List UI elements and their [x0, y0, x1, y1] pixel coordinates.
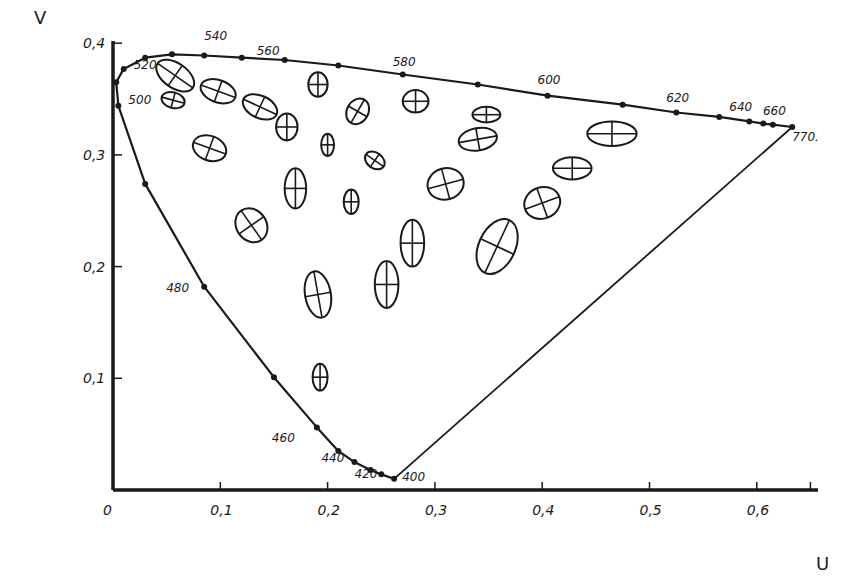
- wavelength-label: 660: [763, 104, 786, 118]
- wavelength-label: 600: [538, 73, 561, 87]
- macadam-ellipses: [151, 53, 637, 390]
- locus-point: [113, 79, 119, 85]
- macadam-ellipse: [321, 134, 334, 156]
- macadam-ellipse: [457, 125, 499, 154]
- locus-point: [673, 109, 679, 115]
- x-tick-label: 0,1: [210, 502, 232, 518]
- locus-point: [201, 284, 207, 290]
- macadam-ellipse: [160, 90, 187, 111]
- x-tick-label: 0,6: [747, 502, 769, 518]
- wavelength-label: 520: [134, 58, 157, 72]
- locus-point: [142, 181, 148, 187]
- macadam-ellipse: [520, 182, 565, 224]
- locus-point: [314, 424, 320, 430]
- locus-point: [201, 52, 207, 58]
- x-axis-label: U: [816, 553, 829, 574]
- macadam-ellipse: [403, 90, 429, 112]
- macadam-ellipse: [197, 74, 239, 107]
- spectral-locus: [113, 51, 795, 481]
- chromaticity-chart: V U 00,10,20,30,40,50,60,10,20,30,4 4004…: [0, 0, 857, 588]
- locus-point: [746, 118, 752, 124]
- macadam-ellipse: [285, 168, 306, 208]
- x-tick-label: 0,2: [318, 502, 340, 518]
- x-tick-label: 0,4: [532, 502, 554, 518]
- spectral-locus-curve: [116, 54, 792, 478]
- locus-point: [770, 122, 776, 128]
- wavelength-label: 500: [128, 93, 151, 107]
- wavelength-label: 440: [321, 451, 344, 465]
- wavelength-label: 640: [729, 100, 752, 114]
- macadam-ellipse: [239, 89, 282, 125]
- macadam-ellipse: [472, 107, 500, 123]
- macadam-ellipse: [229, 202, 274, 249]
- macadam-ellipse: [308, 72, 327, 97]
- wavelength-label: 420: [355, 467, 378, 481]
- y-tick-label: 0,4: [83, 35, 105, 51]
- axes: [113, 41, 818, 490]
- locus-point: [351, 459, 357, 465]
- macadam-ellipse: [342, 94, 374, 128]
- x-tick-label: 0,3: [425, 502, 447, 518]
- wavelength-label: 620: [666, 91, 689, 105]
- y-tick-label: 0,2: [83, 259, 105, 275]
- wavelength-label: 400: [402, 470, 425, 484]
- macadam-ellipse: [189, 131, 230, 166]
- macadam-ellipse: [587, 121, 636, 146]
- locus-point: [620, 102, 626, 108]
- y-axis-label: V: [34, 7, 47, 28]
- locus-point: [335, 63, 341, 69]
- tick-labels: 00,10,20,30,40,50,60,10,20,30,4: [83, 35, 810, 518]
- locus-point: [121, 66, 127, 72]
- locus-point: [760, 121, 766, 127]
- macadam-ellipse: [468, 212, 526, 280]
- locus-point: [271, 374, 277, 380]
- locus-point: [400, 71, 406, 77]
- locus-point: [475, 82, 481, 88]
- locus-point: [115, 103, 121, 109]
- macadam-ellipse: [344, 190, 359, 215]
- purple-line: [394, 127, 792, 479]
- macadam-ellipse: [362, 148, 389, 173]
- x-tick-label: 0,5: [640, 502, 662, 518]
- locus-point: [716, 114, 722, 120]
- wavelength-label: 540: [204, 29, 227, 43]
- macadam-ellipse: [553, 157, 592, 179]
- macadam-ellipse: [151, 53, 200, 98]
- wavelength-label: 480: [166, 281, 189, 295]
- macadam-ellipse: [424, 164, 467, 204]
- wavelength-labels: 4004204404604805005205405605806006206406…: [128, 29, 819, 483]
- macadam-ellipse: [401, 220, 425, 267]
- locus-point: [545, 93, 551, 99]
- macadam-ellipse: [276, 114, 297, 141]
- wavelength-label: 460: [272, 431, 295, 445]
- locus-point: [391, 476, 397, 482]
- x-tick-label: 0: [103, 502, 112, 518]
- locus-point: [239, 55, 245, 61]
- y-tick-label: 0,3: [83, 147, 105, 163]
- wavelength-label: 770.: [792, 130, 819, 144]
- macadam-ellipse: [301, 269, 335, 320]
- macadam-ellipse: [375, 261, 399, 308]
- locus-point: [378, 471, 384, 477]
- y-tick-label: 0,1: [83, 370, 105, 386]
- macadam-ellipse: [313, 364, 328, 391]
- locus-point: [282, 57, 288, 63]
- wavelength-label: 580: [393, 55, 416, 69]
- locus-point: [169, 51, 175, 57]
- wavelength-label: 560: [257, 44, 280, 58]
